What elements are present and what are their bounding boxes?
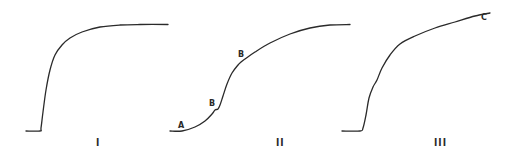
panel-label-ii: II bbox=[276, 137, 285, 148]
panel-label-i: I bbox=[96, 137, 100, 148]
curve-i bbox=[26, 24, 168, 131]
point-label-a: A bbox=[178, 121, 185, 130]
point-label-c: C bbox=[481, 13, 487, 22]
panel-i: I bbox=[26, 24, 168, 148]
point-label-b1: B bbox=[209, 99, 215, 108]
curve-ii bbox=[170, 25, 350, 132]
panel-ii: A B B II bbox=[170, 25, 350, 149]
panel-label-iii: III bbox=[434, 137, 447, 148]
curves-figure: I A B B II C III bbox=[0, 0, 511, 155]
curve-iii bbox=[342, 13, 490, 131]
point-label-b2: B bbox=[238, 50, 244, 59]
panel-iii: C III bbox=[342, 13, 490, 148]
